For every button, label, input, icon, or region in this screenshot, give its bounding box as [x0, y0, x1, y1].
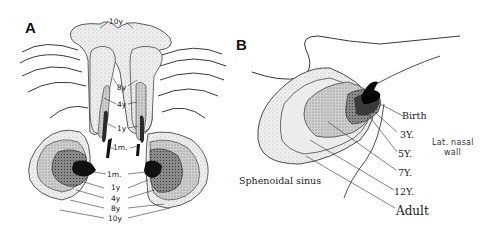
label-a-top-10y: 10y	[109, 17, 124, 26]
sinus-development-figure: A	[0, 0, 496, 234]
label-a-8y-lower: 8y	[111, 204, 121, 213]
skull-base-outline	[252, 36, 460, 79]
label-a-1m-upper: 1m.	[113, 143, 127, 152]
label-wall: wall	[444, 148, 461, 157]
label-b-3y: 3Y.	[400, 129, 414, 140]
panel-a: A	[20, 17, 226, 223]
label-a-4y-lower: 4y	[111, 194, 121, 203]
right-arc-lines	[158, 48, 226, 118]
label-a-1y-upper: 1y	[117, 124, 127, 133]
label-sphenoidal-sinus: Sphenoidal sinus	[239, 175, 321, 186]
frontal-sinus-1y-right	[140, 116, 144, 143]
label-a-1m-lower: 1m.	[107, 170, 121, 179]
figure-canvas: A	[0, 0, 496, 234]
label-b-7y: 7Y.	[398, 167, 412, 178]
label-lat-nasal: Lat. nasal	[432, 138, 474, 147]
label-b-birth: Birth	[402, 110, 427, 121]
left-arc-lines	[20, 44, 88, 118]
label-b-5y: 5Y.	[398, 148, 412, 159]
maxillary-sinus-left	[29, 130, 96, 200]
frontal-sinus-1m-right	[136, 144, 140, 156]
panel-b: B Birth 3Y. 5Y. 7Y. 12Y. Adult	[236, 36, 474, 218]
label-b-12y: 12Y.	[394, 186, 414, 197]
panel-b-letter: B	[236, 36, 247, 53]
label-a-10y-lower: 10y	[108, 214, 123, 223]
label-a-4y-upper: 4y	[117, 100, 127, 109]
frontal-sinus-10y	[70, 22, 171, 135]
panel-a-letter: A	[25, 19, 36, 36]
label-a-1y-lower: 1y	[111, 183, 121, 192]
maxillary-sinus-right	[144, 132, 208, 208]
label-b-adult: Adult	[395, 204, 429, 218]
label-a-8y-upper: 8y	[117, 83, 127, 92]
